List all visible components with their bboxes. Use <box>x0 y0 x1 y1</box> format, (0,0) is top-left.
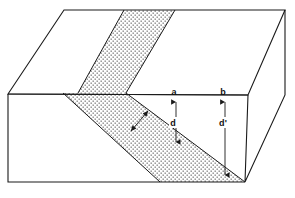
label-depth-d-fg: d <box>170 118 176 128</box>
label-point-a: a <box>171 87 177 97</box>
geological-block-diagram: a b d d' d d' <box>0 0 295 198</box>
label-point-b: b <box>220 87 226 97</box>
label-depth-d-prime-fg: d' <box>219 118 227 128</box>
block-diagram-figure: a b d d' d d' <box>0 0 295 198</box>
